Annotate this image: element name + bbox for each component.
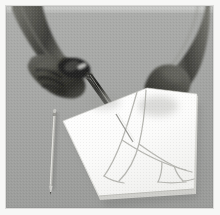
photograph xyxy=(6,6,213,208)
screenshot-root: Hands cutting a drawn shape out of white… xyxy=(0,0,220,215)
photo-canvas xyxy=(6,6,213,208)
film-grain xyxy=(6,6,213,208)
